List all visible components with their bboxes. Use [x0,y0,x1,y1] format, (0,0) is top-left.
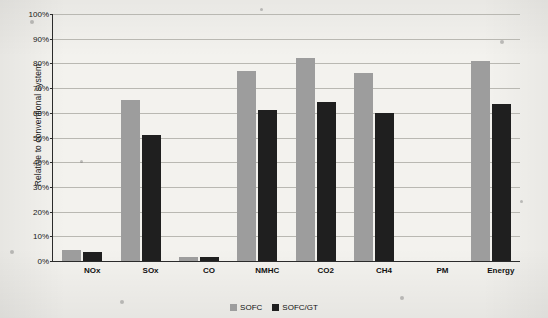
bar-sofc-sox [121,100,140,261]
bar-group: Energy [471,14,511,261]
y-axis-tick-mark [50,212,53,213]
y-axis-tick-mark [50,187,53,188]
chart-legend: SOFC SOFC/GT [0,303,548,312]
y-axis-tick-label: 90% [33,34,49,43]
legend-item-sofc: SOFC [230,303,262,312]
y-axis-tick-label: 30% [33,182,49,191]
y-axis-tick-mark [50,236,53,237]
scan-speckle [10,250,14,254]
bar-group: CO [179,14,219,261]
y-axis-tick-mark [50,261,53,262]
bar-sofc-nmhc [237,71,256,261]
y-axis-title: Relative to conventional system [33,25,43,225]
bar-chart: Relative to conventional system 0%10%20%… [0,0,548,318]
bar-group: CO2 [296,14,336,261]
y-axis-tick-label: 60% [33,108,49,117]
scan-speckle [400,296,404,300]
legend-label-sofc-gt: SOFC/GT [282,303,318,312]
y-axis-tick-label: 80% [33,59,49,68]
bar-sofc-energy [471,61,490,261]
bar-sofc-gt-co2 [317,102,336,261]
bar-sofc-gt-ch4 [375,113,394,261]
scan-speckle [520,200,523,203]
y-axis-tick-label: 100% [29,10,49,19]
y-axis-tick-mark [50,14,53,15]
bar-sofc-gt-sox [142,135,161,261]
y-axis-tick-label: 20% [33,207,49,216]
x-axis-category-label: Energy [466,266,536,275]
y-axis-tick-mark [50,88,53,89]
legend-swatch-icon-sofc [230,304,237,311]
scan-speckle [30,20,34,24]
bar-group: NOx [62,14,102,261]
y-axis-tick-mark [50,39,53,40]
bar-sofc-nox [62,250,81,261]
legend-item-sofc-gt: SOFC/GT [272,303,318,312]
y-axis-tick-label: 70% [33,84,49,93]
bar-group: SOx [121,14,161,261]
bar-sofc-co2 [296,58,315,261]
scan-speckle [260,8,263,11]
y-axis-tick-mark [50,63,53,64]
y-axis-tick-mark [50,113,53,114]
bar-sofc-gt-energy [492,104,511,261]
legend-swatch-icon-sofc-gt [272,304,279,311]
bar-group: CH4 [354,14,394,261]
y-axis-tick-mark [50,138,53,139]
y-axis-tick-label: 40% [33,158,49,167]
bar-sofc-gt-nmhc [258,110,277,261]
plot-area: 0%10%20%30%40%50%60%70%80%90%100%NOxSOxC… [52,14,520,262]
bar-group: PM [412,14,452,261]
y-axis-tick-label: 10% [33,232,49,241]
bar-sofc-gt-co [200,257,219,261]
y-axis-tick-label: 50% [33,133,49,142]
bar-sofc-co [179,257,198,261]
bar-group: NMHC [237,14,277,261]
y-axis-tick-label: 0% [37,257,49,266]
bar-sofc-gt-nox [83,252,102,261]
bar-sofc-ch4 [354,73,373,261]
legend-label-sofc: SOFC [240,303,262,312]
y-axis-tick-mark [50,162,53,163]
